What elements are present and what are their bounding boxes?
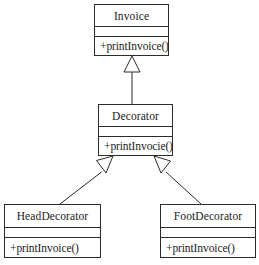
generalization-line: [166, 172, 201, 204]
class-name-footdecorator: FootDecorator: [161, 205, 255, 228]
class-attributes-decorator: [99, 127, 172, 137]
class-box-decorator[interactable]: Decorator +printInvocie(): [98, 104, 173, 156]
class-box-invoice[interactable]: Invoice +printInvoice(): [94, 4, 169, 56]
hollow-triangle-arrowhead: [154, 156, 171, 173]
generalization-footdecorator-to-decorator: [154, 156, 201, 204]
hollow-triangle-arrowhead: [97, 156, 114, 173]
uml-class-diagram: Invoice +printInvoice() Decorator +print…: [0, 0, 259, 265]
generalization-decorator-to-invoice: [124, 56, 140, 104]
class-operation-footdecorator-printinvoice: +printInvoice(): [161, 238, 255, 257]
class-name-headdecorator: HeadDecorator: [5, 205, 100, 228]
generalization-headdecorator-to-decorator: [60, 156, 113, 204]
hollow-triangle-arrowhead: [124, 56, 140, 72]
class-operation-headdecorator-printinvoice: +printInvoice(): [5, 238, 100, 257]
class-operation-decorator-printinvocie: +printInvocie(): [99, 137, 172, 155]
class-attributes-footdecorator: [161, 228, 255, 238]
class-attributes-headdecorator: [5, 228, 100, 238]
class-name-invoice: Invoice: [95, 5, 168, 27]
class-name-decorator: Decorator: [99, 105, 172, 127]
class-attributes-invoice: [95, 27, 168, 37]
class-operation-invoice-printinvoice: +printInvoice(): [95, 37, 168, 55]
generalization-line: [60, 172, 102, 204]
class-box-headdecorator[interactable]: HeadDecorator +printInvoice(): [4, 204, 101, 258]
class-box-footdecorator[interactable]: FootDecorator +printInvoice(): [160, 204, 256, 258]
